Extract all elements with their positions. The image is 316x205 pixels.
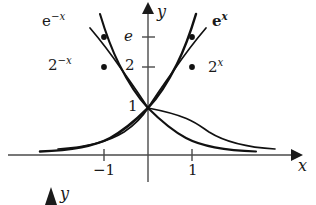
y-tick-label-1: 1 [128, 99, 138, 114]
curve-label-2-neg-x-base: 2 [48, 56, 58, 74]
curve-label-e-pos-x-exponent: x [222, 10, 228, 22]
marked-point-neg1-e [101, 34, 107, 40]
y-axis-arrowhead [142, 2, 154, 14]
marked-point-1-2 [189, 64, 195, 70]
curve-label-2-pos-x-exponent: x [218, 57, 224, 68]
x-tick-label-minus-1: −1 [93, 163, 115, 178]
partial-figure-y-axis-label: y [60, 186, 69, 202]
marked-point-1-e [189, 34, 195, 40]
partial-figure-y-axis-arrowhead [45, 187, 57, 205]
curve-label-2-pos-x: 2x [208, 58, 223, 75]
curve-e-pow-x [40, 14, 196, 152]
curve-label-2-neg-x: 2−x [48, 56, 72, 73]
curve-label-2-pos-x-base: 2 [208, 58, 218, 76]
marked-point-neg1-2 [101, 64, 107, 70]
curve-label-e-neg-x-exponent: −x [51, 11, 65, 22]
curve-label-e-neg-x-base: e [42, 12, 51, 30]
curve-2-pow-neg-x [90, 28, 275, 149]
curve-label-2-neg-x-exponent: −x [58, 55, 72, 66]
curve-label-e-pos-x: ex [212, 11, 228, 29]
plot-canvas [0, 0, 316, 205]
curve-label-e-pos-x-base: e [212, 12, 222, 30]
y-tick-label-2: 2 [125, 58, 135, 73]
exponential-functions-figure: e−x ex 2−x 2x e 2 1 −1 1 y x y [0, 0, 316, 205]
x-tick-label-1: 1 [188, 163, 198, 178]
curve-label-e-neg-x: e−x [42, 12, 65, 29]
y-axis-label: y [157, 4, 166, 20]
y-tick-label-e: e [124, 29, 133, 44]
x-axis-label: x [298, 158, 307, 174]
